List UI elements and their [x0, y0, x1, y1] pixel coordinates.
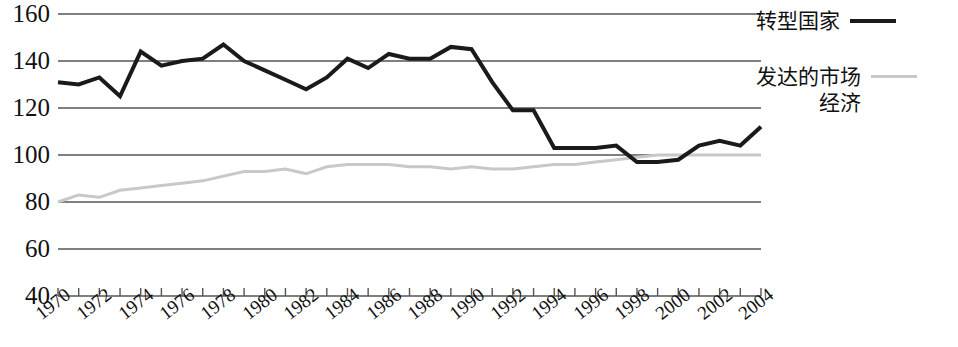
y-axis-tick-label: 100 — [0, 142, 50, 167]
legend-label-developed-market-economies: 发达的市场 经济 — [756, 64, 861, 116]
y-axis-tick-label: 160 — [0, 1, 50, 26]
legend-label-transition-countries: 转型国家 — [756, 8, 840, 34]
y-axis-tick-label: 120 — [0, 95, 50, 120]
xaxis-ticks-group — [58, 288, 761, 296]
legend-item-developed-market-economies[interactable]: 发达的市场 经济 — [756, 64, 917, 116]
y-axis-tick-label: 80 — [0, 189, 50, 214]
dark-line-swatch-icon — [850, 19, 896, 23]
data-series-line — [58, 45, 761, 163]
line-chart-figure: 406080100120140160 197019721974197619781… — [0, 0, 958, 347]
legend-label-line-1: 发达的市场 — [756, 65, 861, 88]
legend-item-transition-countries[interactable]: 转型国家 — [756, 8, 896, 34]
light-line-swatch-icon — [871, 75, 917, 78]
y-axis-tick-label: 60 — [0, 236, 50, 261]
legend-label-line-2: 经济 — [819, 91, 861, 114]
series-group — [58, 45, 761, 202]
y-axis-tick-label: 140 — [0, 48, 50, 73]
